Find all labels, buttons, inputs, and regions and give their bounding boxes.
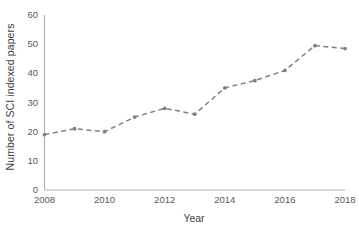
data-point-marker: [193, 112, 197, 116]
data-point-marker: [253, 79, 257, 83]
data-point-marker: [43, 133, 47, 137]
data-point-marker: [163, 106, 167, 110]
data-line-sci-papers: [45, 46, 346, 135]
data-point-marker: [73, 127, 77, 131]
data-point-marker: [133, 115, 137, 119]
data-point-marker: [313, 44, 317, 48]
data-point-markers: [43, 44, 347, 137]
axis-spines: [45, 15, 346, 190]
data-point-marker: [223, 86, 227, 90]
data-point-marker: [343, 47, 347, 51]
data-point-marker: [103, 130, 107, 134]
plot-area: [0, 0, 359, 234]
data-point-marker: [283, 69, 287, 73]
chart-figure: Number of SCI indexed papers Year 010203…: [0, 0, 359, 234]
